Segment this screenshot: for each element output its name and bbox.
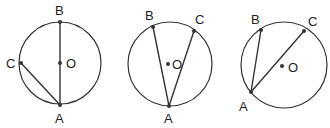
point-c-label: C [195, 12, 204, 27]
circle-chord-diagram: ABCOABCOABCO [0, 0, 330, 128]
figure-2: ABCO [128, 8, 212, 126]
circle-outline [241, 22, 327, 108]
point-o-label: O [66, 56, 76, 71]
point-c-label: C [6, 56, 15, 71]
figure-1: ABCO [6, 3, 101, 126]
point-o-dot [58, 61, 62, 65]
point-a-label: A [239, 99, 248, 114]
point-b-dot [151, 25, 155, 29]
point-b-label: B [251, 12, 260, 27]
point-c-dot [192, 29, 196, 33]
point-a-dot [58, 103, 62, 107]
point-b-dot [259, 28, 263, 32]
point-o-label: O [172, 57, 182, 72]
point-o-label: O [288, 60, 298, 75]
point-c-dot [302, 29, 306, 33]
chord-ba [153, 27, 169, 106]
point-o-dot [280, 64, 284, 68]
point-a-label: A [55, 111, 64, 126]
point-c-dot [19, 61, 23, 65]
point-b-label: B [145, 8, 154, 23]
point-a-dot [249, 90, 253, 94]
figure-3: ABCO [239, 12, 327, 114]
point-b-dot [58, 20, 62, 24]
point-c-label: C [308, 14, 317, 29]
point-b-label: B [55, 3, 64, 18]
point-a-dot [167, 104, 171, 108]
point-a-label: A [164, 111, 173, 126]
point-o-dot [166, 62, 170, 66]
